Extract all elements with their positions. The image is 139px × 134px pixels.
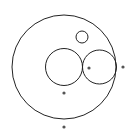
point-right-circle-center [87, 66, 90, 69]
point-outside-right [121, 65, 124, 68]
point-below-outer [62, 125, 65, 128]
background [0, 0, 139, 134]
geometry-diagram [0, 0, 139, 134]
point-below-middle [62, 91, 65, 94]
